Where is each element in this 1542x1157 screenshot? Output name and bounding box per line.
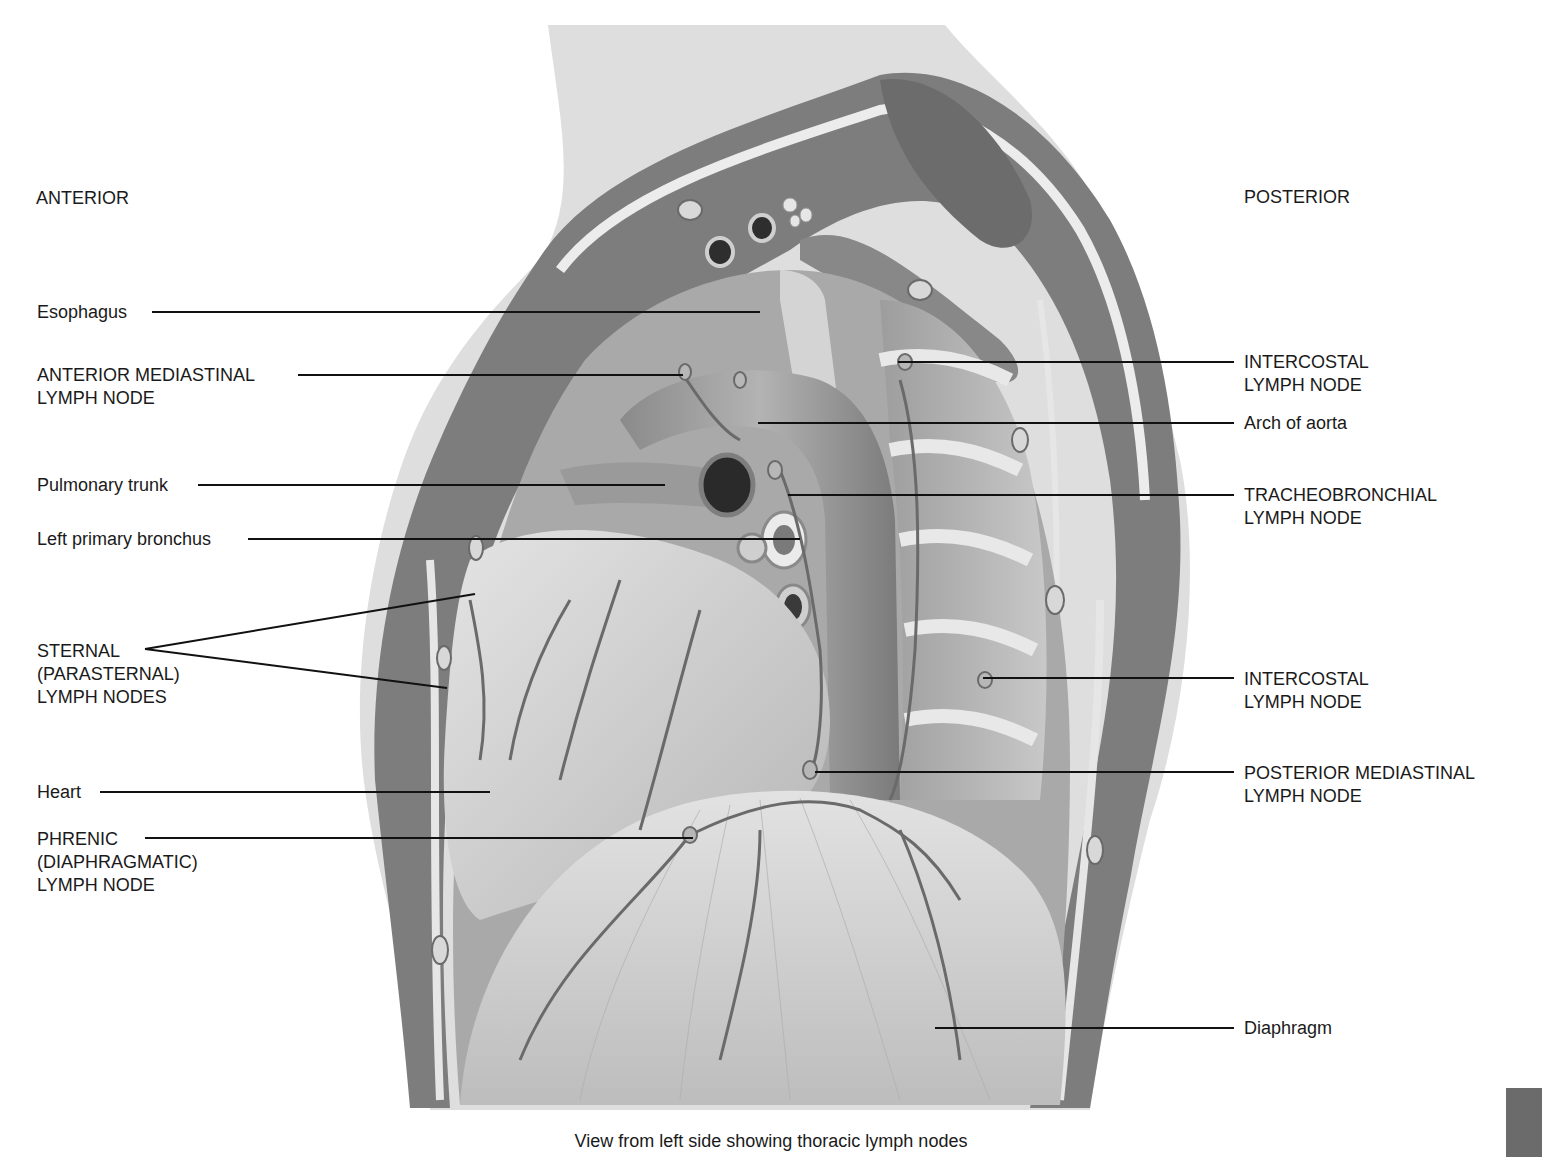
figure-caption: View from left side showing thoracic lym… xyxy=(0,1131,1542,1152)
label-left-primary-bronchus: Left primary bronchus xyxy=(37,528,211,551)
label-sternal-lymph-nodes: STERNAL (PARASTERNAL) LYMPH NODES xyxy=(37,640,180,709)
label-diaphragm: Diaphragm xyxy=(1244,1017,1332,1040)
label-intercostal-lymph-node-lower: INTERCOSTAL LYMPH NODE xyxy=(1244,668,1369,714)
page-edge-tab xyxy=(1506,1088,1542,1157)
label-pulmonary-trunk: Pulmonary trunk xyxy=(37,474,168,497)
label-posterior-mediastinal-lymph-node: POSTERIOR MEDIASTINAL LYMPH NODE xyxy=(1244,762,1475,808)
thoracic-lymph-nodes-figure: ANTERIOR POSTERIOR Esophagus ANTERIOR ME… xyxy=(0,0,1542,1157)
orientation-posterior: POSTERIOR xyxy=(1244,186,1350,209)
label-esophagus: Esophagus xyxy=(37,301,127,324)
label-intercostal-lymph-node-upper: INTERCOSTAL LYMPH NODE xyxy=(1244,351,1369,397)
orientation-anterior: ANTERIOR xyxy=(36,187,129,210)
label-anterior-mediastinal-lymph-node: ANTERIOR MEDIASTINAL LYMPH NODE xyxy=(37,364,255,410)
label-tracheobronchial-lymph-node: TRACHEOBRONCHIAL LYMPH NODE xyxy=(1244,484,1437,530)
label-arch-of-aorta: Arch of aorta xyxy=(1244,412,1347,435)
anatomy-illustration xyxy=(0,0,1542,1157)
label-heart: Heart xyxy=(37,781,81,804)
label-phrenic-lymph-node: PHRENIC (DIAPHRAGMATIC) LYMPH NODE xyxy=(37,828,198,897)
